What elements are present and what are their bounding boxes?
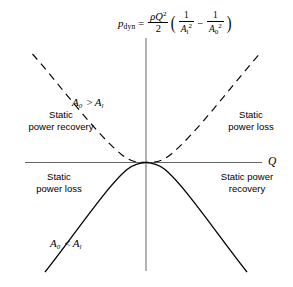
- quadrant-label-bottom-right-line1: Static power: [206, 171, 288, 183]
- equation-title: pdyn = ρQ2 2 ( 1 Al2 − 1 A02 ): [118, 11, 233, 36]
- fraction-one-over-a02: 1 A02: [207, 11, 224, 36]
- curve-label-a0-less-al: A0 <Al: [50, 237, 81, 251]
- quadrant-label-top-left-line2: power recovery: [13, 121, 109, 133]
- fraction-one-over-al2: 1 Al2: [179, 11, 194, 36]
- quadrant-label-bottom-right: Static power recovery: [206, 171, 288, 194]
- fraction-denominator: Al2: [179, 21, 194, 36]
- quadrant-label-bottom-left-line2: power loss: [16, 183, 102, 195]
- quadrant-label-bottom-left: Static power loss: [16, 171, 102, 194]
- quadrant-label-top-left: Static power recovery: [13, 109, 109, 132]
- equation-minus: −: [198, 18, 204, 29]
- quadrant-label-top-right: Static power loss: [215, 109, 287, 132]
- equation-lhs: pdyn: [118, 17, 135, 31]
- fraction-numerator: 1: [211, 11, 220, 21]
- fraction-denominator: A02: [207, 21, 224, 36]
- fraction-denominator: 2: [148, 22, 168, 35]
- curve-label-a0-greater-al: A0 >Al: [72, 96, 103, 110]
- physics-diagram: pdyn = ρQ2 2 ( 1 Al2 − 1 A02 ) Q A0 >Al …: [0, 0, 293, 287]
- fraction-numerator: 1: [182, 11, 191, 21]
- fraction-rho-q2-over-2: ρQ2 2: [148, 11, 168, 35]
- close-paren: ): [227, 15, 232, 31]
- open-paren: (: [171, 15, 176, 31]
- quadrant-label-top-right-line2: power loss: [215, 121, 287, 133]
- x-axis-label: Q: [268, 155, 276, 167]
- plot-canvas: [0, 0, 293, 287]
- quadrant-label-bottom-left-line1: Static: [16, 171, 102, 183]
- quadrant-label-bottom-right-line2: recovery: [206, 183, 288, 195]
- equation-equals: =: [138, 18, 144, 29]
- quadrant-label-top-right-line1: Static: [215, 109, 287, 121]
- quadrant-label-top-left-line1: Static: [13, 109, 109, 121]
- fraction-numerator: ρQ2: [148, 11, 168, 22]
